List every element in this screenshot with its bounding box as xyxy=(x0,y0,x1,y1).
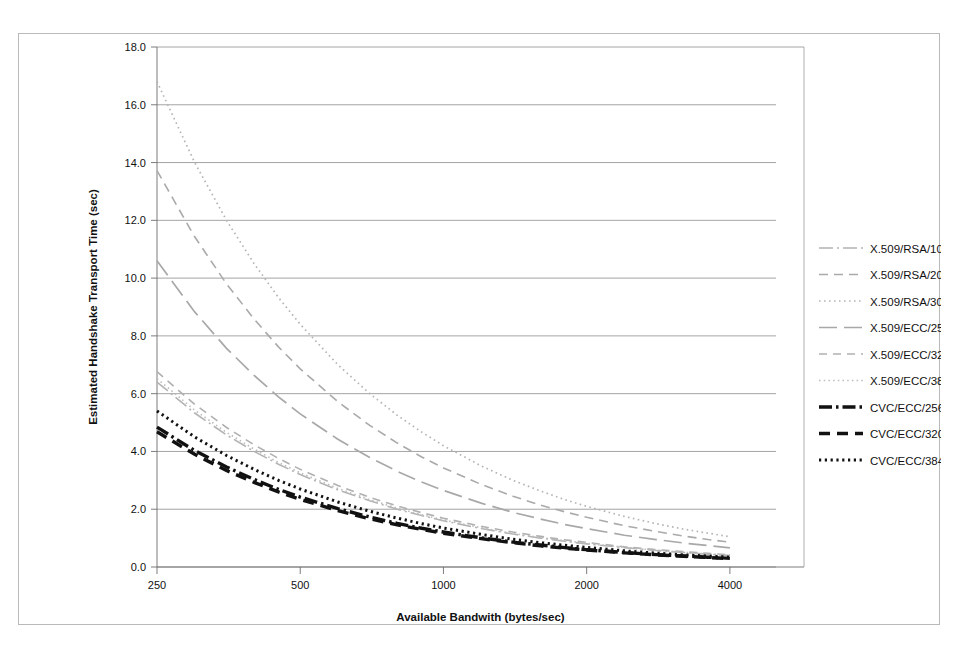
legend-label-x-509-rsa-2048: X.509/RSA/2048 xyxy=(870,269,941,281)
x-axis-title: Available Bandwith (bytes/sec) xyxy=(396,611,564,623)
series-line-x-509-rsa-2048 xyxy=(157,171,730,543)
y-axis-title: Estimated Handshake Transport Time (sec) xyxy=(87,189,99,425)
axes xyxy=(151,47,804,574)
chart-legend: X.509/RSA/1024X.509/RSA/2048X.509/RSA/30… xyxy=(819,243,941,467)
legend-label-cvc-ecc-384: CVC/ECC/384 xyxy=(870,455,941,467)
legend-label-cvc-ecc-256: CVC/ECC/256 xyxy=(870,402,941,414)
y-tick-label: 2.0 xyxy=(131,503,146,515)
x-tick-label: 1000 xyxy=(431,579,455,591)
x-tick-label: 250 xyxy=(148,579,166,591)
legend-label-x-509-ecc-384: X.509/ECC/384 xyxy=(870,375,941,387)
chart-figure: 0.02.04.06.08.010.012.014.016.018.025050… xyxy=(18,33,940,625)
y-tick-label: 8.0 xyxy=(131,330,146,342)
series-line-cvc-ecc-384 xyxy=(157,411,730,557)
x-tick-label: 2000 xyxy=(574,579,598,591)
y-tick-label: 4.0 xyxy=(131,445,146,457)
y-tick-label: 0.0 xyxy=(131,561,146,573)
y-tick-label: 16.0 xyxy=(125,99,146,111)
axis-tick-labels: 0.02.04.06.08.010.012.014.016.018.025050… xyxy=(125,41,743,591)
gridlines xyxy=(157,47,804,567)
y-tick-label: 6.0 xyxy=(131,388,146,400)
legend-label-x-509-ecc-320: X.509/ECC/320 xyxy=(870,349,941,361)
y-tick-label: 14.0 xyxy=(125,157,146,169)
chart-canvas: 0.02.04.06.08.010.012.014.016.018.025050… xyxy=(19,34,941,626)
legend-label-x-509-ecc-256: X.509/ECC/256 xyxy=(870,322,941,334)
series-line-cvc-ecc-320 xyxy=(157,432,730,559)
x-tick-label: 500 xyxy=(291,579,309,591)
y-tick-label: 10.0 xyxy=(125,272,146,284)
y-tick-label: 18.0 xyxy=(125,41,146,53)
y-tick-label: 12.0 xyxy=(125,214,146,226)
x-tick-label: 4000 xyxy=(718,579,742,591)
legend-label-x-509-rsa-1024: X.509/RSA/1024 xyxy=(870,243,941,255)
data-series xyxy=(157,82,730,559)
legend-label-x-509-rsa-3072: X.509/RSA/3072 xyxy=(870,296,941,308)
legend-label-cvc-ecc-320: CVC/ECC/320 xyxy=(870,428,941,440)
